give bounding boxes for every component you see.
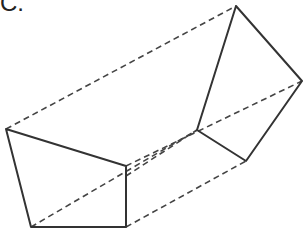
dashed-edge-upper-right — [126, 81, 302, 166]
dashed-edge-middle — [126, 130, 197, 176]
dashed-edge-top — [6, 6, 236, 129]
back-face — [197, 6, 302, 161]
front-face — [6, 129, 126, 227]
prism-diagram — [0, 0, 303, 236]
dashed-edge-bottom — [126, 161, 246, 227]
dashed-edges — [6, 6, 302, 227]
